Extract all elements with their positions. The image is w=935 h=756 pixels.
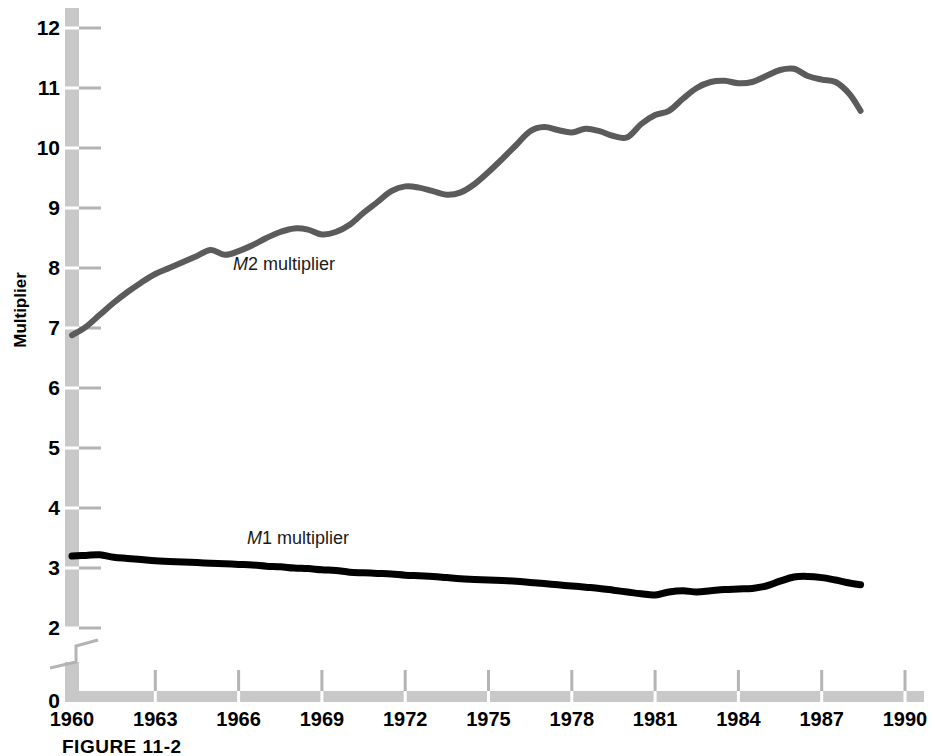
- y-tick-notch: [65, 27, 79, 30]
- y-tick-notch: [65, 627, 79, 630]
- y-tick-mark: [79, 627, 101, 630]
- y-tick-notch: [65, 387, 79, 390]
- y-tick-label: 3: [20, 557, 60, 578]
- y-tick-mark: [79, 147, 101, 150]
- x-tick-notch: [570, 691, 573, 702]
- x-tick-notch: [404, 691, 407, 702]
- y-tick-label: 8: [20, 257, 60, 278]
- y-tick-mark: [79, 447, 101, 450]
- y-tick-label-zero: 0: [20, 690, 60, 711]
- y-tick-label: 4: [20, 497, 60, 518]
- y-tick-notch: [65, 507, 79, 510]
- x-tick-label: 1972: [365, 709, 445, 729]
- x-tick-notch: [820, 691, 823, 702]
- y-tick-mark: [79, 207, 101, 210]
- x-tick-mark: [737, 670, 740, 692]
- x-tick-mark: [904, 670, 907, 692]
- figure-container: Multiplier 23456789101112 19601963196619…: [0, 0, 935, 756]
- x-tick-label: 1960: [32, 709, 112, 729]
- x-tick-mark: [404, 670, 407, 692]
- y-tick-notch: [65, 567, 79, 570]
- x-tick-notch: [904, 691, 907, 702]
- y-tick-mark: [79, 567, 101, 570]
- y-tick-mark: [79, 507, 101, 510]
- x-tick-mark: [237, 670, 240, 692]
- series-line-m2: [72, 68, 861, 335]
- y-tick-notch: [65, 447, 79, 450]
- y-tick-mark: [79, 267, 101, 270]
- y-tick-notch: [65, 207, 79, 210]
- y-tick-label: 5: [20, 437, 60, 458]
- x-tick-notch: [487, 691, 490, 702]
- y-tick-mark: [79, 87, 101, 90]
- x-tick-label: 1963: [115, 709, 195, 729]
- x-tick-notch: [154, 691, 157, 702]
- tick-marks-group: [65, 27, 907, 703]
- y-tick-label: 12: [20, 17, 60, 38]
- x-tick-mark: [487, 670, 490, 692]
- figure-caption: FIGURE 11-2: [62, 736, 182, 756]
- series-lines-group: [72, 68, 861, 595]
- y-tick-label: 10: [20, 137, 60, 158]
- y-tick-label: 7: [20, 317, 60, 338]
- axis-bars-group: [65, 8, 924, 702]
- x-tick-notch: [320, 691, 323, 702]
- x-tick-mark: [154, 670, 157, 692]
- x-tick-notch: [737, 691, 740, 702]
- y-tick-label: 11: [20, 77, 60, 98]
- y-tick-mark: [79, 27, 101, 30]
- x-tick-notch: [654, 691, 657, 702]
- m2-label: M2 multiplier: [233, 254, 335, 275]
- y-tick-label: 9: [20, 197, 60, 218]
- x-axis-bar: [65, 691, 924, 702]
- y-tick-mark: [79, 387, 101, 390]
- chart-plot-area: [0, 0, 935, 756]
- y-axis-bar: [65, 8, 79, 628]
- x-tick-label: 1990: [865, 709, 935, 729]
- x-tick-label: 1966: [199, 709, 279, 729]
- x-tick-label: 1984: [698, 709, 778, 729]
- y-tick-label: 2: [20, 617, 60, 638]
- x-tick-label: 1981: [615, 709, 695, 729]
- x-tick-mark: [570, 670, 573, 692]
- x-tick-label: 1975: [449, 709, 529, 729]
- axis-break-zigzag: [50, 640, 98, 668]
- x-tick-mark: [820, 670, 823, 692]
- x-tick-mark: [320, 670, 323, 692]
- x-tick-label: 1987: [782, 709, 862, 729]
- x-tick-notch: [237, 691, 240, 702]
- y-tick-label: 6: [20, 377, 60, 398]
- y-axis-break-icon: [50, 640, 98, 668]
- m1-label: M1 multiplier: [247, 528, 349, 549]
- x-tick-label: 1978: [532, 709, 612, 729]
- x-tick-label: 1969: [282, 709, 362, 729]
- y-tick-notch: [65, 267, 79, 270]
- series-line-m1: [72, 555, 861, 595]
- y-tick-notch: [65, 87, 79, 90]
- x-tick-mark: [654, 670, 657, 692]
- y-tick-notch: [65, 147, 79, 150]
